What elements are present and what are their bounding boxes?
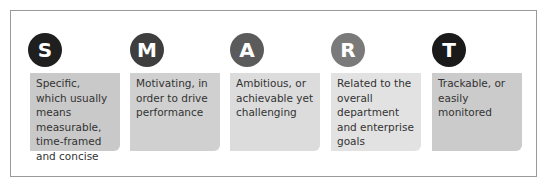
letter-circle-a: A xyxy=(230,33,264,67)
letter-circle-r: R xyxy=(331,33,365,67)
description-box-r: Related to the overall department and en… xyxy=(331,73,421,151)
description-box-s: Specific, which usually means measurable… xyxy=(30,73,120,151)
letter-circle-m: M xyxy=(130,33,164,67)
letter-circle-t: T xyxy=(432,33,466,67)
description-box-a: Ambitious, or achievable yet challenging xyxy=(230,73,320,151)
letter-circle-s: S xyxy=(28,33,62,67)
description-box-m: Motivating, in order to drive performanc… xyxy=(130,73,220,151)
description-box-t: Trackable, or easily monitored xyxy=(432,73,522,151)
